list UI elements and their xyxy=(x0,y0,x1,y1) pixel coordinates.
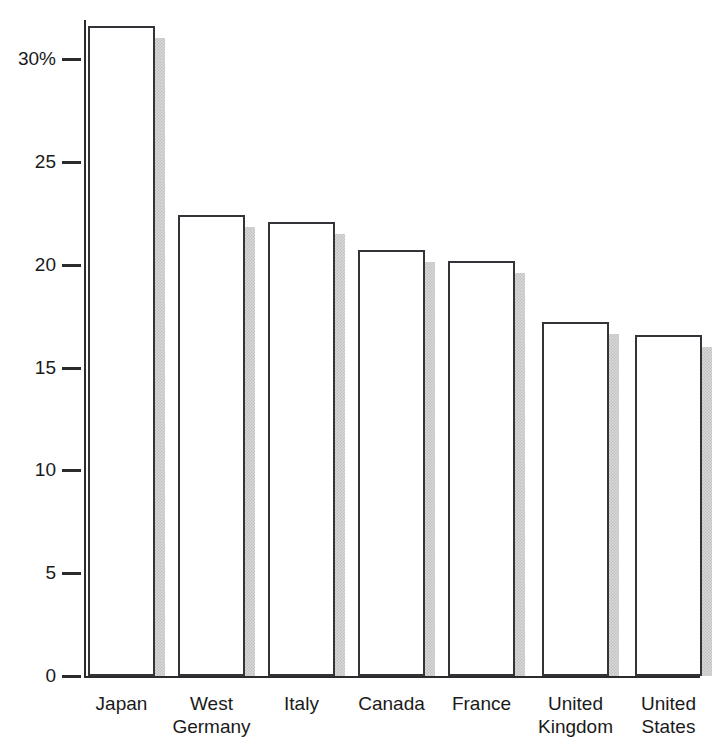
y-axis-tick-label: 30% xyxy=(0,49,56,68)
y-axis-tick-mark xyxy=(62,161,81,164)
y-axis-tick-label: 10 xyxy=(0,460,56,479)
y-axis-tick-label: 5 xyxy=(0,563,56,582)
bar-rect xyxy=(178,215,245,676)
x-axis-category-label: United States xyxy=(609,692,722,738)
bar-rect xyxy=(542,322,609,676)
y-axis-tick-label: 15 xyxy=(0,358,56,377)
y-axis-tick-label: 0 xyxy=(0,666,56,685)
y-axis-line xyxy=(84,20,86,678)
y-axis-tick-label-text: 5 xyxy=(0,563,56,582)
y-axis-tick-mark xyxy=(62,572,81,575)
bar-chart: 051015202530% JapanWest GermanyItalyCana… xyxy=(0,0,722,753)
bar-rect xyxy=(448,261,515,676)
y-axis-tick-label-text: 0 xyxy=(0,666,56,685)
y-axis-tick-mark xyxy=(62,367,81,370)
y-axis-tick-label-text: 25 xyxy=(0,152,56,171)
y-axis-tick-label-text: 10 xyxy=(0,460,56,479)
y-axis-tick-label: 25 xyxy=(0,152,56,171)
x-axis-line xyxy=(84,676,700,678)
y-axis-tick-mark xyxy=(62,675,81,678)
bar-rect xyxy=(635,335,702,676)
y-axis-tick-label: 20 xyxy=(0,255,56,274)
bar-rect xyxy=(358,250,425,676)
y-axis-tick-mark xyxy=(62,469,81,472)
bar-rect xyxy=(268,222,335,676)
y-axis-tick-label-text: 15 xyxy=(0,358,56,377)
y-axis-tick-mark xyxy=(62,58,81,61)
y-axis-tick-mark xyxy=(62,264,81,267)
bar-rect xyxy=(88,26,155,676)
y-axis-tick-label-text: 30% xyxy=(0,49,56,68)
y-axis-tick-label-text: 20 xyxy=(0,255,56,274)
